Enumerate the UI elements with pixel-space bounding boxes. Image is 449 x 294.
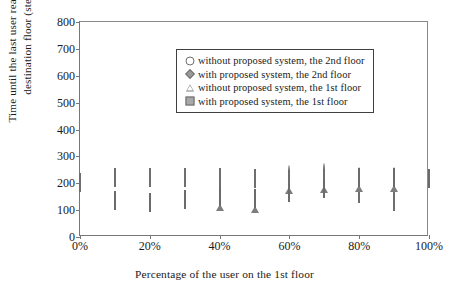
data-point — [219, 188, 221, 206]
y-tick-label: 500 — [57, 97, 75, 109]
y-tick-label: 400 — [57, 124, 75, 136]
y-tick — [76, 156, 80, 157]
legend-label: without proposed system, the 1st floor — [198, 82, 361, 93]
y-tick-label: 800 — [57, 16, 75, 28]
filled-diamond-marker — [254, 169, 256, 188]
data-point — [184, 191, 186, 209]
data-point — [254, 190, 256, 208]
x-tick-label: 40% — [209, 240, 231, 252]
legend-label: with proposed system, the 2nd floor — [198, 69, 351, 80]
filled-diamond-marker — [79, 173, 81, 192]
legend-label: without proposed system, the 2nd floor — [198, 55, 365, 66]
y-tick — [76, 210, 80, 211]
y-tick — [76, 76, 80, 77]
data-point — [428, 170, 430, 188]
filled-diamond-marker — [393, 192, 395, 211]
y-tick — [76, 22, 80, 23]
y-axis-title: Time until the last user reaches the des… — [0, 0, 44, 157]
x-tick-label: 60% — [278, 240, 300, 252]
data-point — [288, 184, 290, 202]
filled-square-marker — [149, 193, 151, 212]
filled-diamond-marker — [114, 168, 116, 187]
data-point — [358, 169, 360, 187]
y-tick-label: 600 — [57, 70, 75, 82]
data-point — [79, 174, 81, 192]
data-point — [323, 180, 325, 198]
plot-area: 0100200300400500600700800 0%20%40%60%80%… — [79, 21, 428, 236]
y-axis-title-line-2: destination floor (step) — [20, 0, 35, 122]
data-point — [149, 169, 151, 187]
legend-marker — [183, 95, 196, 108]
open-circle-marker — [185, 56, 194, 65]
legend-item: with proposed system, the 1st floor — [183, 95, 365, 109]
filled-square-marker — [358, 168, 360, 187]
x-tick-label: 80% — [348, 240, 370, 252]
data-point — [219, 169, 221, 187]
y-tick — [76, 49, 80, 50]
data-point — [114, 169, 116, 187]
filled-square-marker — [114, 191, 116, 210]
data-point — [149, 194, 151, 212]
legend-marker — [183, 54, 196, 67]
legend-item: with proposed system, the 2nd floor — [183, 68, 365, 82]
y-tick-label: 700 — [57, 43, 75, 55]
legend-marker — [183, 81, 196, 94]
x-tick-label: 100% — [415, 240, 443, 252]
filled-square-marker — [254, 189, 256, 208]
chart-figure: Time until the last user reaches the des… — [0, 0, 449, 294]
y-tick — [76, 130, 80, 131]
legend-label: with proposed system, the 1st floor — [198, 96, 348, 107]
y-tick-label: 300 — [57, 150, 75, 162]
x-axis-title: Percentage of the user on the 1st floor — [0, 268, 449, 280]
data-point — [184, 169, 186, 187]
legend-marker — [183, 68, 196, 81]
open-triangle-marker — [186, 84, 194, 91]
filled-square-marker — [219, 187, 221, 206]
y-tick-label: 100 — [57, 204, 75, 216]
filled-diamond-marker — [184, 168, 186, 187]
data-point — [254, 170, 256, 188]
x-tick-label: 20% — [139, 240, 161, 252]
data-point — [114, 192, 116, 210]
filled-square-marker — [428, 169, 430, 188]
filled-diamond-marker — [219, 168, 221, 187]
legend-item: without proposed system, the 2nd floor — [183, 54, 365, 68]
filled-square-marker — [393, 168, 395, 187]
y-axis-title-line-1: Time until the last user reaches the — [5, 0, 20, 122]
filled-diamond-marker — [185, 69, 195, 79]
data-point — [393, 193, 395, 211]
filled-square-marker — [184, 190, 186, 209]
data-point — [393, 169, 395, 187]
chart-legend: without proposed system, the 2nd floorwi… — [176, 49, 374, 113]
filled-square-marker — [288, 183, 290, 202]
filled-square-marker — [323, 179, 325, 198]
y-tick-label: 200 — [57, 177, 75, 189]
filled-square-marker — [185, 97, 194, 106]
x-tick-label: 0% — [72, 240, 88, 252]
y-tick — [76, 103, 80, 104]
legend-item: without proposed system, the 1st floor — [183, 81, 365, 95]
filled-diamond-marker — [149, 168, 151, 187]
